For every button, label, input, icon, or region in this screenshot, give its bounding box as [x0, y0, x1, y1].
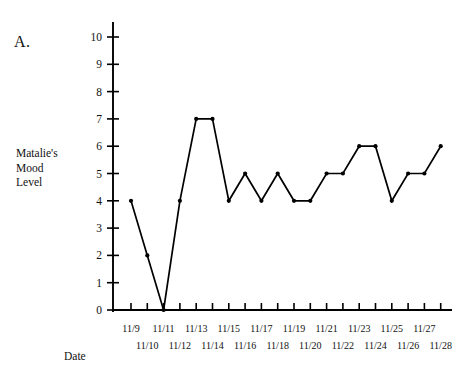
svg-text:11/14: 11/14: [201, 340, 223, 351]
svg-text:11/17: 11/17: [250, 323, 272, 334]
svg-text:11/27: 11/27: [413, 323, 435, 334]
svg-text:11/24: 11/24: [364, 340, 386, 351]
svg-text:1: 1: [96, 277, 102, 289]
svg-text:10: 10: [91, 31, 103, 43]
svg-text:0: 0: [96, 304, 102, 316]
svg-text:11/28: 11/28: [429, 340, 451, 351]
svg-text:6: 6: [96, 140, 102, 152]
chart-figure: A. Matalie's Mood Level Date 12345678910…: [0, 0, 462, 389]
svg-text:3: 3: [96, 222, 102, 234]
svg-text:8: 8: [96, 86, 102, 98]
svg-text:5: 5: [96, 168, 102, 180]
svg-text:11/18: 11/18: [266, 340, 288, 351]
data-series: [129, 117, 443, 312]
svg-text:11/13: 11/13: [185, 323, 207, 334]
y-axis: 123456789100: [91, 22, 120, 316]
svg-text:11/20: 11/20: [299, 340, 321, 351]
svg-text:4: 4: [96, 195, 102, 207]
plot-area: 123456789100 11/911/1011/1111/1211/1311/…: [0, 0, 462, 389]
svg-text:7: 7: [96, 113, 102, 125]
svg-text:11/10: 11/10: [136, 340, 158, 351]
svg-text:9: 9: [96, 58, 102, 70]
svg-text:11/26: 11/26: [397, 340, 419, 351]
svg-text:2: 2: [96, 249, 102, 261]
svg-text:11/11: 11/11: [153, 323, 175, 334]
svg-text:11/16: 11/16: [234, 340, 256, 351]
svg-text:11/21: 11/21: [315, 323, 337, 334]
svg-text:11/25: 11/25: [381, 323, 403, 334]
svg-text:11/23: 11/23: [348, 323, 370, 334]
svg-text:11/19: 11/19: [283, 323, 305, 334]
svg-text:11/9: 11/9: [122, 323, 139, 334]
x-tick-labels: 11/911/1011/1111/1211/1311/1411/1511/161…: [122, 323, 452, 351]
svg-text:11/22: 11/22: [332, 340, 354, 351]
svg-text:11/15: 11/15: [218, 323, 240, 334]
svg-text:11/12: 11/12: [169, 340, 191, 351]
